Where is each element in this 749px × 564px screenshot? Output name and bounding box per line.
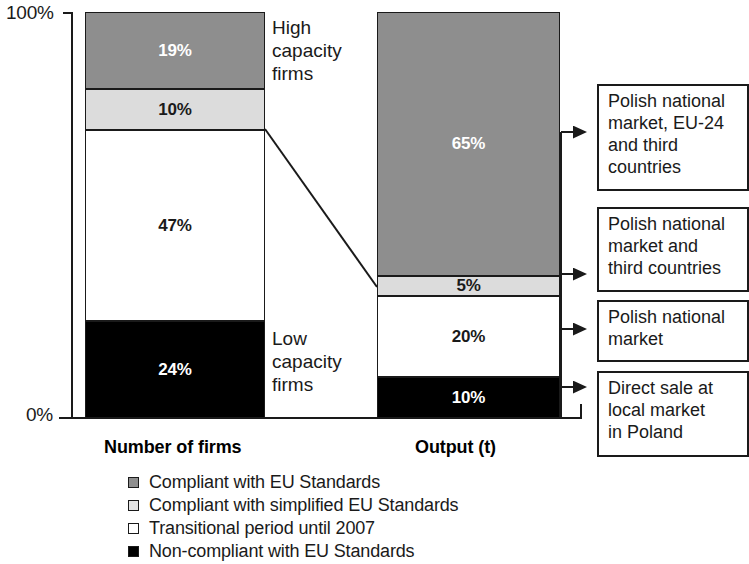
bar-segment-firms-transitional: 47% bbox=[85, 130, 265, 321]
y-axis-top-tick bbox=[63, 12, 73, 14]
legend-swatch-icon bbox=[128, 477, 139, 488]
callout-box-direct-local-sale: Direct sale at local market in Poland bbox=[597, 371, 749, 457]
legend-item-label: Compliant with EU Standards bbox=[149, 472, 380, 493]
legend-swatch-icon bbox=[128, 523, 139, 534]
bar-segment-output-noncompliant: 10% bbox=[377, 377, 560, 418]
legend-item-noncompliant[interactable]: Non-compliant with EU Standards bbox=[128, 540, 458, 563]
bar-segment-firms-simplified: 10% bbox=[85, 89, 265, 130]
legend-item-transitional[interactable]: Transitional period until 2007 bbox=[128, 517, 458, 540]
legend-item-label: Non-compliant with EU Standards bbox=[149, 541, 414, 562]
annotation-low-capacity-firms: Low capacity firms bbox=[272, 327, 342, 396]
legend-swatch-icon bbox=[128, 500, 139, 511]
bar-segment-value: 47% bbox=[158, 216, 191, 236]
bar-segment-value: 65% bbox=[452, 134, 485, 154]
bar-segment-output-transitional: 20% bbox=[377, 296, 560, 377]
stacked-bar-number-of-firms: 19% 10% 47% 24% bbox=[85, 12, 265, 418]
legend-item-label: Compliant with simplified EU Standards bbox=[149, 495, 458, 516]
x-axis-category-number-of-firms: Number of firms bbox=[104, 437, 242, 458]
bar-segment-value: 5% bbox=[456, 276, 480, 296]
legend: Compliant with EU Standards Compliant wi… bbox=[128, 471, 458, 563]
bar-segment-firms-compliant: 19% bbox=[85, 12, 265, 89]
y-axis-line bbox=[71, 12, 73, 419]
stacked-bar-output: 65% 5% 20% 10% bbox=[377, 12, 560, 418]
bar-segment-firms-noncompliant: 24% bbox=[85, 321, 265, 418]
bar-segment-value: 24% bbox=[158, 360, 191, 380]
legend-item-label: Transitional period until 2007 bbox=[149, 518, 375, 539]
bar-segment-value: 10% bbox=[452, 388, 485, 408]
bar-segment-value: 19% bbox=[158, 41, 191, 61]
link-line-capacity-split bbox=[265, 129, 377, 287]
bar-segment-output-simplified: 5% bbox=[377, 276, 560, 296]
callout-box-national-third: Polish national market and third countri… bbox=[597, 207, 749, 292]
callout-box-national-market: Polish national market bbox=[597, 300, 749, 362]
bar-segment-output-compliant: 65% bbox=[377, 12, 560, 276]
x-axis-category-output: Output (t) bbox=[415, 437, 496, 458]
x-axis-end-tick bbox=[580, 404, 582, 419]
callout-box-export-markets: Polish national market, EU-24 and third … bbox=[597, 84, 749, 191]
legend-item-compliant[interactable]: Compliant with EU Standards bbox=[128, 471, 458, 494]
y-axis-top-tick-label: 100% bbox=[6, 2, 54, 24]
annotation-high-capacity-firms: High capacity firms bbox=[272, 16, 342, 85]
bar-segment-value: 20% bbox=[452, 327, 485, 347]
legend-swatch-icon bbox=[128, 546, 139, 557]
legend-item-simplified[interactable]: Compliant with simplified EU Standards bbox=[128, 494, 458, 517]
y-axis-bottom-tick-label: 0% bbox=[26, 404, 53, 426]
bar-segment-value: 10% bbox=[158, 100, 191, 120]
